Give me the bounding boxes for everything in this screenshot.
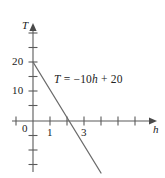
equation-plus: + [101, 73, 108, 85]
equation-slope-term: −10h [73, 73, 98, 85]
x-tick-label-1: 1 [47, 127, 53, 138]
origin-label: 0 [22, 123, 28, 134]
equation-lhs: T [54, 73, 61, 85]
equation-intercept: 20 [111, 73, 123, 85]
x-axis-label: h [153, 124, 159, 135]
x-tick-label-3: 3 [81, 127, 87, 138]
y-axis-arrowhead [29, 23, 36, 31]
chart-canvas: T h 20 10 0 1 3 T = −10h + 20 [0, 0, 165, 178]
y-tick-label-20: 20 [12, 56, 23, 67]
equation-equals-sign: = [64, 73, 71, 85]
equation-slope-number: −10h [73, 73, 98, 85]
y-tick-label-10: 10 [12, 85, 23, 96]
equation-annotation: T = −10h + 20 [54, 74, 123, 86]
y-axis-label: T [22, 20, 28, 31]
